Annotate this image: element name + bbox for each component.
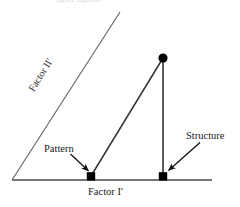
structure-marker-filled-square-icon <box>159 172 167 180</box>
oblique-factor-axes-figure: figure caption Factor I' Factor II' Patt… <box>0 0 240 207</box>
pattern-projection-line <box>91 58 163 176</box>
figure-canvas <box>0 0 240 207</box>
structure-annotation-label: Structure <box>186 131 225 142</box>
factor-i-axis-label: Factor I' <box>88 187 123 198</box>
filled-circle-icon <box>158 53 167 62</box>
structure-arrow-down-left-icon <box>169 143 201 171</box>
pattern-marker-filled-square-icon <box>87 172 95 180</box>
pattern-arrow-down-right-icon <box>71 154 89 171</box>
pattern-annotation-label: Pattern <box>44 144 74 155</box>
